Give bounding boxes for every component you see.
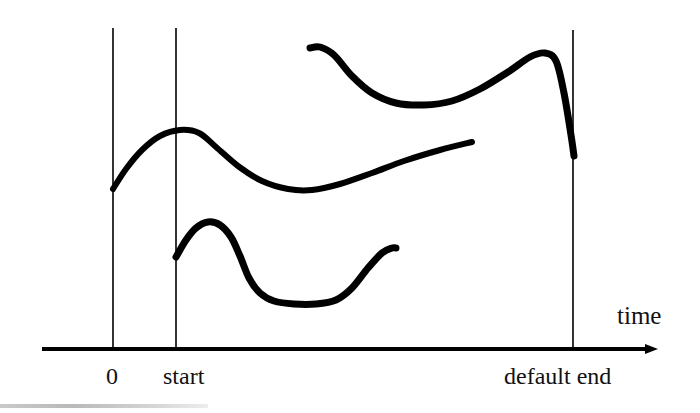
tick-label-zero: 0 bbox=[106, 364, 118, 388]
lower-curve bbox=[176, 222, 396, 305]
diagram-canvas: time 0 start default end bbox=[0, 0, 700, 413]
axis-label-time: time bbox=[617, 303, 661, 328]
diagram-svg bbox=[0, 0, 700, 413]
middle-curve bbox=[113, 130, 472, 191]
upper-curve bbox=[310, 47, 574, 156]
tick-label-start: start bbox=[163, 364, 204, 388]
curve-group bbox=[113, 47, 574, 305]
tick-label-default-end: default end bbox=[504, 364, 611, 388]
scan-artifact bbox=[0, 404, 208, 408]
